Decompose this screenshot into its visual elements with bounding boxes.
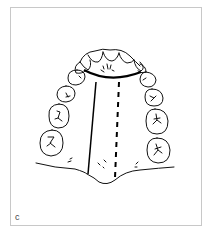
premolar-right-1 [140,72,156,87]
molar-right-1 [146,109,168,134]
panel-label: c [15,212,20,222]
dashed-line [115,82,119,178]
incisor-teeth [80,49,143,71]
solid-line [88,82,96,174]
anterior-arc-line [84,70,141,78]
dental-arch-diagram [0,0,215,236]
palate-border [36,163,174,184]
